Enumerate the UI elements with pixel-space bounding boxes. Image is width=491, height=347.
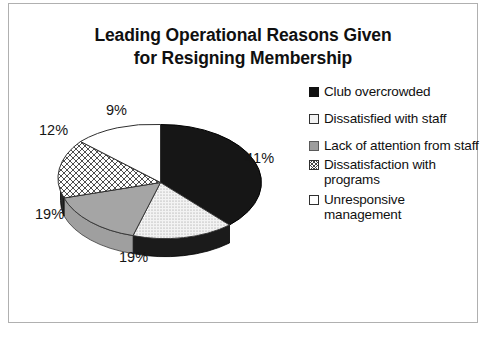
chart-title: Leading Operational Reasons Given for Re… bbox=[9, 24, 477, 70]
pie-label-9-percent: 9% bbox=[106, 102, 127, 118]
legend-swatch-solid-black-icon bbox=[309, 87, 319, 97]
pie-label-19-percent-left: 19% bbox=[35, 206, 64, 222]
legend-swatch-solid-gray-icon bbox=[309, 141, 319, 151]
legend-label-unresponsive-management: Unresponsive management bbox=[324, 192, 481, 222]
pie-chart-plot-area: 41% 19% 19% 12% 9% bbox=[9, 82, 309, 282]
legend-label-dissatisfaction-with-programs: Dissatisfaction with programs bbox=[324, 157, 481, 187]
legend-swatch-white-icon bbox=[309, 195, 319, 205]
pie-chart-graphic bbox=[19, 92, 299, 267]
legend-item-unresponsive-management: Unresponsive management bbox=[309, 192, 481, 222]
legend-item-dissatisfied-with-staff: Dissatisfied with staff bbox=[309, 111, 481, 126]
legend-swatch-dotted-icon bbox=[309, 114, 319, 124]
legend-label-lack-of-attention: Lack of attention from staff bbox=[324, 138, 479, 153]
pie-label-12-percent: 12% bbox=[39, 122, 68, 138]
figure-frame: Leading Operational Reasons Given for Re… bbox=[8, 3, 478, 323]
legend-label-dissatisfied-with-staff: Dissatisfied with staff bbox=[324, 111, 446, 126]
legend-label-club-overcrowded: Club overcrowded bbox=[324, 84, 430, 99]
legend-item-lack-of-attention: Lack of attention from staff bbox=[309, 138, 481, 153]
pie-label-41-percent: 41% bbox=[245, 150, 274, 166]
legend-item-dissatisfaction-with-programs: Dissatisfaction with programs bbox=[309, 157, 481, 187]
legend-item-club-overcrowded: Club overcrowded bbox=[309, 84, 481, 99]
chart-legend: Club overcrowded Dissatisfied with staff… bbox=[309, 84, 481, 226]
pie-label-19-percent-bottom: 19% bbox=[119, 249, 148, 265]
figure-caption bbox=[10, 333, 480, 347]
legend-swatch-crosshatch-icon bbox=[309, 160, 319, 170]
